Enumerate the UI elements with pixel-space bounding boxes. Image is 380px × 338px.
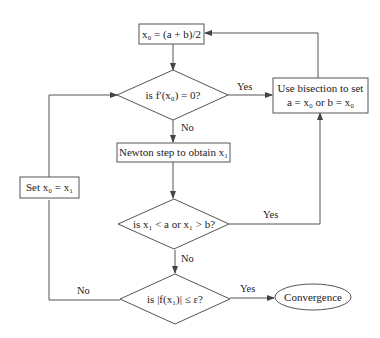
edge-label-no: No (181, 253, 194, 264)
edge-conv-no: No (49, 200, 120, 300)
edge-label-no: No (181, 122, 194, 133)
node-check-deriv: is f′(x₀) = 0? (117, 70, 228, 120)
edge-setx0-to-deriv (49, 95, 117, 180)
node-check-deriv-label: is f′(x₀) = 0? (146, 89, 201, 102)
edge-bounds-no: No (175, 250, 194, 273)
node-bisect-line1: Use bisection to set (278, 82, 364, 94)
edge-deriv-yes: Yes (228, 81, 272, 95)
edge-bounds-yes: Yes (229, 113, 320, 224)
node-init-label: x₀ = (a + b)/2 (142, 28, 201, 41)
node-set-x0: Set x₀ = x₁ (20, 177, 79, 198)
node-newton-label: Newton step to obtain x₁ (119, 146, 228, 158)
edge-label-yes: Yes (263, 209, 278, 220)
edge-label-yes: Yes (237, 81, 252, 92)
edge-deriv-no: No (173, 120, 194, 142)
edge-conv-yes: Yes (230, 283, 274, 298)
node-check-conv: is |f(x₁)| ≤ ε? (120, 274, 230, 324)
node-init: x₀ = (a + b)/2 (139, 24, 204, 44)
node-set-x0-label: Set x₀ = x₁ (26, 181, 73, 193)
edge-bisect-to-init (205, 33, 318, 78)
node-converge: Convergence (275, 284, 351, 310)
node-newton: Newton step to obtain x₁ (117, 143, 230, 162)
node-check-conv-label: is |f(x₁)| ≤ ε? (147, 293, 203, 306)
edge-label-no: No (77, 285, 90, 296)
node-bisect: Use bisection to set a = x₀ or b = x₀ (273, 78, 368, 113)
edge-label-yes: Yes (240, 283, 255, 294)
flowchart-canvas: Yes No Yes No Yes No x₀ = (a + b)/2 (0, 0, 380, 338)
node-check-bounds-label: is x₁ < a or x₁ > b? (133, 218, 215, 230)
node-converge-label: Convergence (284, 291, 342, 303)
node-check-bounds: is x₁ < a or x₁ > b? (118, 199, 229, 249)
node-bisect-line2: a = x₀ or b = x₀ (287, 96, 354, 108)
